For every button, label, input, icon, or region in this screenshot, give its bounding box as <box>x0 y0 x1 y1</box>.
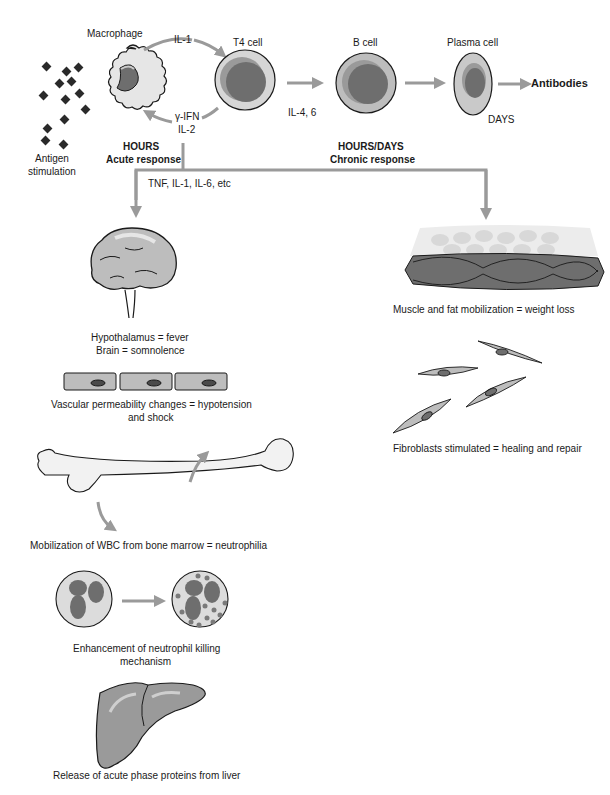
acute-response-label: Acute response <box>106 153 181 166</box>
liver-proteins-label: Release of acute phase proteins from liv… <box>53 769 240 782</box>
antigen-particles <box>39 62 91 150</box>
plasma-cell <box>454 53 492 115</box>
t4-cell <box>215 50 275 110</box>
plasma-cell-label: Plasma cell <box>447 36 498 49</box>
fibroblasts-label: Fibroblasts stimulated = healing and rep… <box>393 442 582 455</box>
antibodies-label: Antibodies <box>531 77 588 90</box>
il1-label: IL-1 <box>174 33 191 46</box>
neutrophil-before <box>56 571 112 627</box>
il1-arrow <box>194 40 222 54</box>
il46-label: IL-4, 6 <box>288 106 316 119</box>
days-label: DAYS <box>488 113 515 126</box>
bone-marrow-label: Mobilization of WBC from bone marrow = n… <box>30 539 267 552</box>
muscle-fat-label: Muscle and fat mobilization = weight los… <box>393 303 574 316</box>
cytokines-label: TNF, IL-1, IL-6, etc <box>148 177 231 190</box>
hypothalamus-fever-label: Hypothalamus = fever <box>91 331 189 344</box>
antigen-label-line2: stimulation <box>28 165 76 178</box>
t4-cell-label: T4 cell <box>233 36 262 49</box>
muscle-fat-illustration <box>405 225 604 290</box>
b-cell <box>336 53 396 113</box>
neutrophil-killing-label-line1: Enhancement of neutrophil killing <box>73 642 220 655</box>
brain-illustration <box>91 228 176 318</box>
neutrophil-after <box>172 571 228 628</box>
fibroblast-cells <box>393 341 542 433</box>
b-cell-label: B cell <box>353 36 377 49</box>
vascular-permeability-label: Vascular permeability changes = hypotens… <box>51 398 252 411</box>
antigen-label-line1: Antigen <box>35 152 69 165</box>
liver-illustration <box>96 683 205 768</box>
macrophage-label: Macrophage <box>87 27 143 40</box>
bone-marrow-down-arrow <box>98 502 112 528</box>
il2-label: IL-2 <box>178 123 195 136</box>
gifn-arrow <box>148 113 172 122</box>
vascular-shock-label: and shock <box>128 411 174 424</box>
vascular-cells <box>64 373 227 390</box>
neutrophil-killing-label-line2: mechanism <box>120 655 171 668</box>
chronic-response-label: Chronic response <box>330 153 415 166</box>
macrophage-cell <box>109 45 167 109</box>
chronic-time-label: HOURS/DAYS <box>338 140 404 153</box>
gifn-arrow-right <box>202 108 218 118</box>
brain-somnolence-label: Brain = somnolence <box>96 344 185 357</box>
gamma-ifn-label: γ-IFN <box>175 110 199 123</box>
bone-illustration <box>38 439 294 492</box>
acute-time-label: HOURS <box>123 140 159 153</box>
